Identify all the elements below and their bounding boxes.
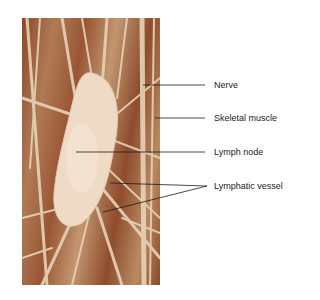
label-lymph-node: Lymph node bbox=[214, 147, 263, 158]
lymph-node-photo bbox=[22, 18, 160, 285]
label-nerve: Nerve bbox=[214, 80, 238, 91]
label-skeletal-muscle: Skeletal muscle bbox=[214, 113, 277, 124]
tissue-strands bbox=[22, 18, 160, 285]
label-lymphatic-vessel: Lymphatic vessel bbox=[214, 181, 283, 192]
